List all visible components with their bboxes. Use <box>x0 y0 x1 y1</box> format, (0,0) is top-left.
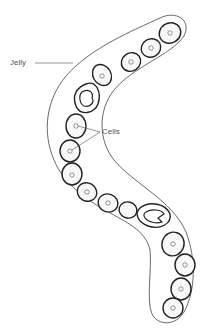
cell <box>96 191 121 215</box>
cell <box>175 254 195 276</box>
nuclei <box>68 31 187 310</box>
cell-chain <box>60 19 195 318</box>
cell <box>62 163 82 185</box>
cell <box>171 278 191 300</box>
cell <box>60 140 80 162</box>
algae-filament-diagram <box>0 0 218 331</box>
jelly-label: Jelly <box>10 59 26 67</box>
cell <box>117 200 139 220</box>
cell <box>163 298 183 318</box>
chloroplast-shape <box>80 90 93 106</box>
cell <box>66 114 86 138</box>
cell <box>118 49 145 75</box>
cells-label: Cells <box>102 128 120 136</box>
